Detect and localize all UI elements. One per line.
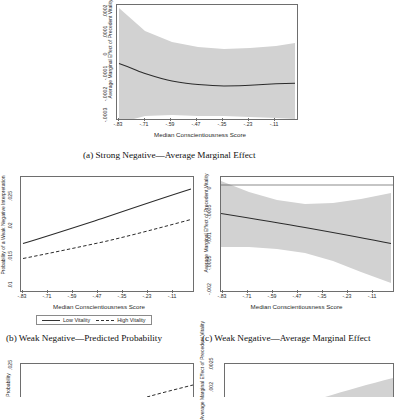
panel-e-plot-area — [224, 363, 394, 397]
panel-b-low-vitality-line — [23, 189, 191, 244]
figure-panel-e-cropped: Average Marginal Effect of Precedent Vit… — [196, 358, 397, 395]
panel-c-plot-area — [220, 176, 394, 292]
panel-a-xtick-4: -.35 — [212, 121, 232, 127]
panel-a-xtick-5: -.23 — [238, 121, 258, 127]
panel-b-xtick-6: -.11 — [162, 293, 182, 299]
panel-c-ytick-1: -.0015 — [206, 252, 212, 274]
panel-a-ytick-3: 0 — [102, 47, 108, 61]
panel-a-xtick-1: -.71 — [134, 121, 154, 127]
panel-b-xtick-1: -.71 — [37, 293, 57, 299]
panel-a-xtick-6: -.11 — [264, 121, 284, 127]
caption-a: (a) Strong Negative—Average Marginal Eff… — [83, 150, 255, 160]
figure-panel-c: Average Marginal Effect of Precedent Vit… — [196, 172, 397, 327]
legend-label-low-vitality: Low Vitality — [63, 317, 90, 323]
panel-e-y-axis-title: Average Marginal Effect of Precedent Vit… — [199, 350, 205, 420]
panel-a-plot-area — [116, 4, 298, 120]
panel-c-xtick-1: -.71 — [237, 293, 257, 299]
panel-c-xtick-5: -.23 — [337, 293, 357, 299]
panel-c-xtick-2: -.59 — [262, 293, 282, 299]
panel-b-xtick-0: -.83 — [12, 293, 32, 299]
panel-b-ytick-1: .015 — [7, 247, 13, 265]
panel-c-xtick-6: -.11 — [362, 293, 382, 299]
panel-c-plot-svg — [221, 177, 393, 291]
panel-b-plot-area — [20, 176, 194, 292]
panel-b-ytick-2: .02 — [7, 219, 13, 233]
panel-b-high-vitality-line — [23, 220, 191, 259]
figure-panel-d-cropped: Probability .025 — [0, 358, 198, 395]
panel-e-ci-band — [325, 378, 393, 397]
panel-a-xtick-2: -.59 — [160, 121, 180, 127]
panel-a-x-axis-title: Median Conscientiousness Score — [100, 131, 300, 138]
panel-d-plot-area — [20, 363, 194, 397]
caption-c: (c) Weak Negative—Average Marginal Effec… — [202, 333, 370, 343]
panel-d-ytick-0: .025 — [7, 356, 13, 374]
panel-c-xtick-3: -.47 — [287, 293, 307, 299]
panel-b-ytick-0: .01 — [7, 278, 13, 292]
panel-b-legend: Low Vitality High Vitality — [36, 315, 152, 325]
panel-b-ytick-3: .025 — [7, 187, 13, 205]
legend-swatch-solid-icon — [42, 320, 60, 321]
panel-a-ytick-1: -.0002 — [102, 83, 108, 105]
panel-d-plot-svg — [21, 364, 193, 397]
legend-item-low-vitality: Low Vitality — [42, 317, 90, 323]
legend-item-high-vitality: High Vitality — [96, 317, 145, 323]
panel-e-plot-svg — [225, 364, 393, 397]
panel-c-xtick-4: -.35 — [312, 293, 332, 299]
panel-c-ytick-4: 0 — [206, 183, 212, 193]
panel-b-y-axis-title: Probability of a Weak Negative Interpret… — [0, 166, 6, 284]
panel-c-ytick-3: -.0005 — [206, 201, 212, 223]
panel-a-plot-svg — [117, 5, 297, 119]
panel-c-x-axis-title: Median Conscientiousness Score — [196, 303, 397, 310]
legend-label-high-vitality: High Vitality — [117, 317, 145, 323]
panel-c-ci-band — [221, 181, 391, 283]
panel-e-ytick-1: .002 — [208, 378, 214, 396]
panel-a-xtick-0: -.83 — [108, 121, 128, 127]
caption-b: (b) Weak Negative—Predicted Probability — [6, 333, 162, 343]
panel-b-xtick-4: -.35 — [112, 293, 132, 299]
panel-a-ytick-4: .0001 — [102, 22, 108, 42]
panel-a-ci-band — [119, 8, 295, 119]
legend-swatch-dashed-icon — [96, 320, 114, 321]
panel-b-xtick-2: -.59 — [62, 293, 82, 299]
panel-b-plot-svg — [21, 177, 193, 291]
panel-c-xtick-0: -.83 — [212, 293, 232, 299]
panel-c-ytick-2: -.001 — [206, 229, 212, 247]
figure-panel-b: Probability of a Weak Negative Interpret… — [0, 172, 198, 330]
panel-b-x-axis-title: Median Conscientiousness Score — [0, 303, 198, 310]
panel-b-xtick-3: -.47 — [87, 293, 107, 299]
panel-b-xtick-5: -.23 — [137, 293, 157, 299]
panel-d-high-vitality-line — [147, 385, 193, 397]
panel-a-ytick-2: -.0001 — [102, 62, 108, 84]
panel-a-xtick-3: -.47 — [186, 121, 206, 127]
panel-e-ytick-0: .0025 — [208, 353, 214, 375]
panel-a-ytick-5: .0002 — [102, 1, 108, 21]
figure-panel-a: Average Marginal Effect of Precedent Vit… — [100, 0, 300, 150]
